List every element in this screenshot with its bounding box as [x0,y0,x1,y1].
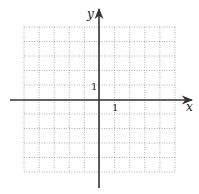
x-tick-label-1: 1 [112,102,118,113]
coordinate-plane: x y 1 1 [0,0,199,194]
coordinate-plane-svg: x y 1 1 [0,0,199,194]
y-axis-label: y [86,7,94,21]
y-tick-label-1: 1 [91,81,97,92]
x-axis-label: x [186,100,193,114]
